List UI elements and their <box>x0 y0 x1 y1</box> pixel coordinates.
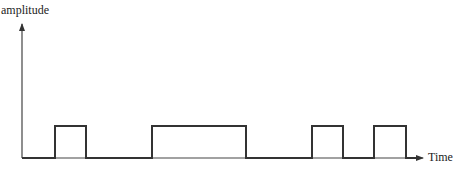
x-axis-label: Time <box>428 150 453 165</box>
pulse-waveform <box>22 126 417 158</box>
y-axis-label: amplitude <box>1 3 49 18</box>
pulse-train-diagram <box>0 0 459 169</box>
